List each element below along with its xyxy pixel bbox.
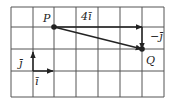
vector-four-i-label: 4ī	[80, 10, 92, 23]
point-Q-dot	[139, 46, 145, 52]
vector-unit-j-label: j̄	[17, 57, 24, 70]
point-P-label: P	[42, 12, 51, 25]
point-Q-label: Q	[146, 54, 155, 67]
point-P-dot	[51, 24, 57, 30]
vector-grid-diagram: 4ī−j̄j̄īPQ	[0, 0, 174, 103]
vector-unit-i-label: ī	[35, 75, 39, 88]
vector-minus-j-label: −j̄	[150, 30, 164, 43]
